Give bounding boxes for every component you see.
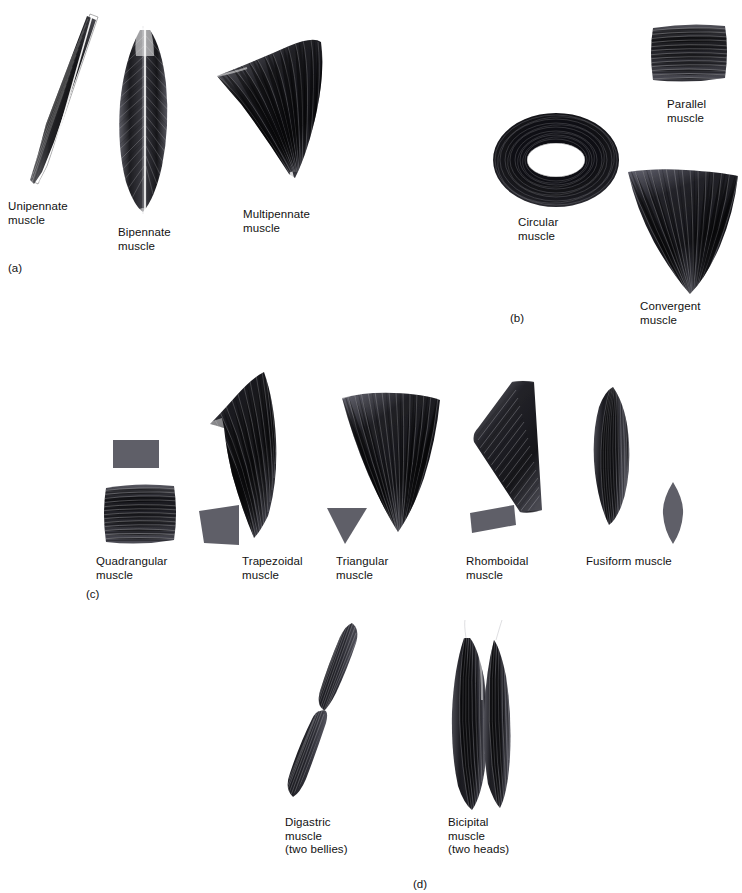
unipennate-muscle-illustration	[24, 14, 110, 194]
label-trapezoidal: Trapezoidal muscle	[242, 555, 303, 582]
panel-letter-d: (d)	[413, 878, 427, 892]
label-quadrangular: Quadrangular muscle	[96, 555, 168, 582]
label-multipennate: Multipennate muscle	[243, 208, 310, 235]
bipennate-muscle-illustration	[110, 26, 180, 214]
panel-letter-a: (a)	[8, 262, 22, 276]
fusiform-reference-shape	[660, 482, 686, 548]
label-circular: Circular muscle	[518, 216, 558, 243]
multipennate-muscle-illustration	[213, 32, 368, 202]
convergent-muscle-illustration	[624, 168, 742, 298]
muscle-shapes-figure: Unipennate muscle	[0, 0, 742, 893]
bicipital-muscle-illustration	[432, 620, 542, 815]
panel-letter-c: (c)	[86, 588, 99, 602]
panel-c: Quadrangular muscle	[0, 360, 742, 610]
rhomboidal-muscle-illustration	[468, 380, 590, 530]
triangular-muscle-illustration	[336, 392, 446, 537]
panel-letter-b: (b)	[510, 312, 524, 326]
quadrangular-reference-shape	[113, 440, 159, 472]
quadrangular-muscle-illustration	[100, 482, 180, 548]
label-fusiform: Fusiform muscle	[586, 555, 672, 569]
panel-b: Parallel muscle	[440, 0, 742, 340]
label-bicipital: Bicipital muscle (two heads)	[448, 816, 509, 857]
label-digastric: Digastric muscle (two bellies)	[285, 816, 348, 857]
label-triangular: Triangular muscle	[336, 555, 388, 582]
panel-d: Digastric muscle (two bellies)	[0, 615, 742, 893]
circular-muscle-illustration	[490, 110, 622, 210]
label-rhomboidal: Rhomboidal muscle	[466, 555, 528, 582]
fusiform-muscle-illustration	[583, 385, 645, 545]
label-parallel: Parallel muscle	[667, 98, 706, 125]
label-convergent: Convergent muscle	[640, 300, 700, 327]
digastric-muscle-illustration	[280, 615, 390, 815]
label-unipennate: Unipennate muscle	[8, 200, 68, 227]
label-bipennate: Bipennate muscle	[118, 226, 171, 253]
trapezoidal-muscle-illustration	[198, 370, 310, 540]
parallel-muscle-illustration	[645, 20, 735, 90]
panel-a: Unipennate muscle	[0, 0, 430, 290]
